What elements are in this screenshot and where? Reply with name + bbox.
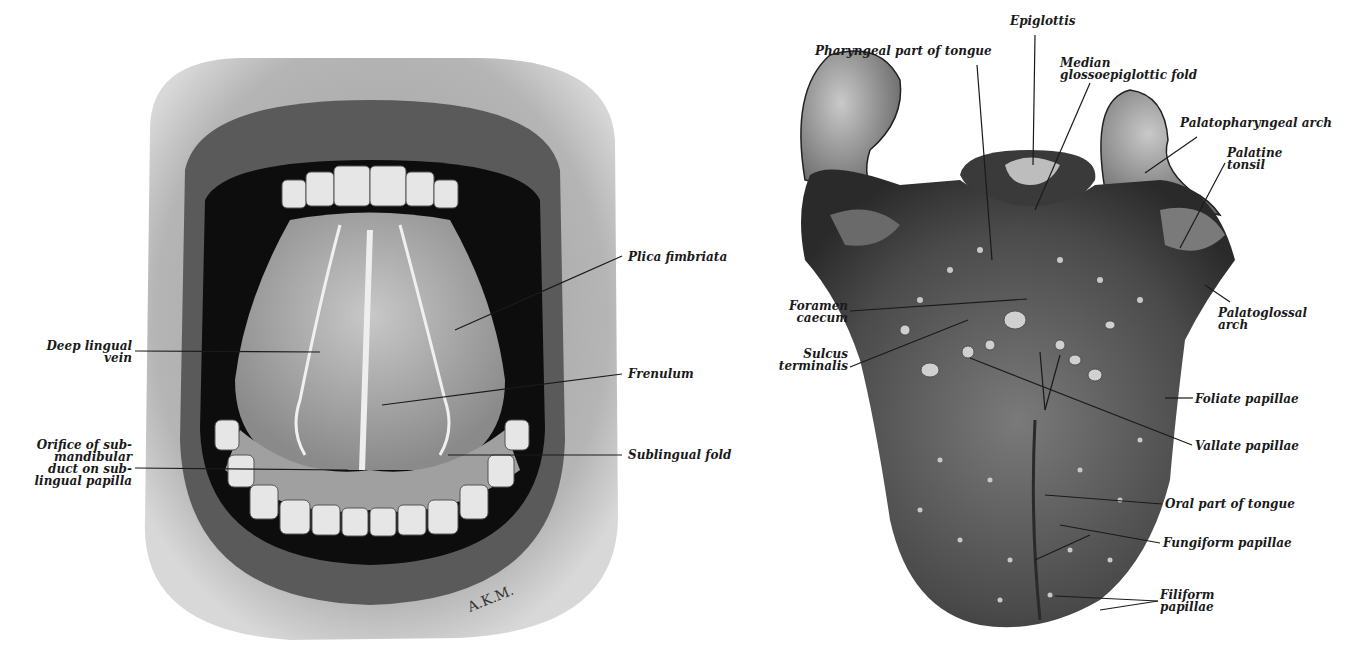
label-palatopharyngeal-arch: Palatopharyngeal arch <box>1180 117 1332 129</box>
label-epiglottis: Epiglottis <box>1010 15 1075 27</box>
label-orifice-submandibular-duct: Orifice of sub- mandibular duct on sub- … <box>8 439 132 487</box>
illustration-canvas: A.K.M. <box>0 0 1359 657</box>
label-vallate-papillae: Vallate papillae <box>1195 440 1299 452</box>
label-deep-lingual-vein: Deep lingual vein <box>14 340 132 364</box>
label-palatine-tonsil: Palatine tonsil <box>1227 147 1282 171</box>
label-plica-fimbriata: Plica fimbriata <box>628 251 727 263</box>
label-foramen-caecum: Foramen caecum <box>760 300 848 324</box>
label-pharyngeal-part-of-tongue: Pharyngeal part of tongue <box>815 45 992 57</box>
mouth-illustration <box>145 58 618 640</box>
label-fungiform-papillae: Fungiform papillae <box>1163 537 1292 549</box>
upper-teeth <box>282 166 458 208</box>
label-filiform-papillae: Filiform papillae <box>1160 589 1214 613</box>
label-oral-part-of-tongue: Oral part of tongue <box>1165 498 1295 510</box>
label-frenulum: Frenulum <box>628 368 694 380</box>
label-median-glossoepiglottic-fold: Median glossoepiglottic fold <box>1060 57 1197 81</box>
label-sulcus-terminalis: Sulcus terminalis <box>760 348 848 372</box>
label-palatoglossal-arch: Palatoglossal arch <box>1218 307 1307 331</box>
label-sublingual-fold: Sublingual fold <box>628 449 731 461</box>
label-foliate-papillae: Foliate papillae <box>1195 393 1299 405</box>
